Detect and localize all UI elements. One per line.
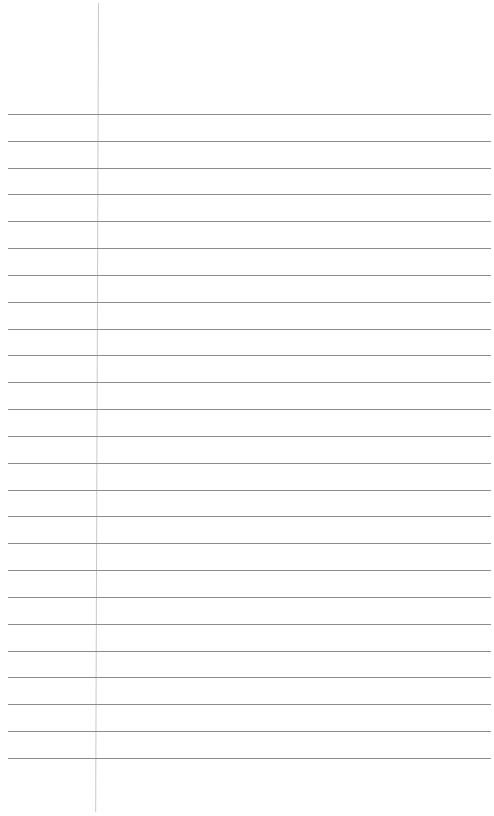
ruled-line xyxy=(8,597,491,598)
ruled-line xyxy=(8,543,491,544)
ruled-line xyxy=(8,275,491,276)
ruled-line xyxy=(8,463,491,464)
ruled-line xyxy=(8,516,491,517)
ruled-line xyxy=(8,329,491,330)
ruled-line xyxy=(8,194,491,195)
ruled-line xyxy=(8,570,491,571)
ruled-line xyxy=(8,302,491,303)
ruled-line xyxy=(8,490,491,491)
ruled-line xyxy=(8,141,491,142)
ruled-line xyxy=(8,382,491,383)
ruled-line xyxy=(8,731,491,732)
ruled-line xyxy=(8,677,491,678)
ruled-line xyxy=(8,248,491,249)
ruled-line xyxy=(8,704,491,705)
ruled-line xyxy=(8,436,491,437)
ruled-line xyxy=(8,409,491,410)
ruled-line xyxy=(8,624,491,625)
ruled-line xyxy=(8,651,491,652)
margin-line xyxy=(95,3,99,812)
ruled-line xyxy=(8,758,491,759)
ruled-line xyxy=(8,355,491,356)
ruled-line xyxy=(8,168,491,169)
ruled-line xyxy=(8,221,491,222)
ruled-paper xyxy=(0,0,494,816)
ruled-line xyxy=(8,114,491,115)
